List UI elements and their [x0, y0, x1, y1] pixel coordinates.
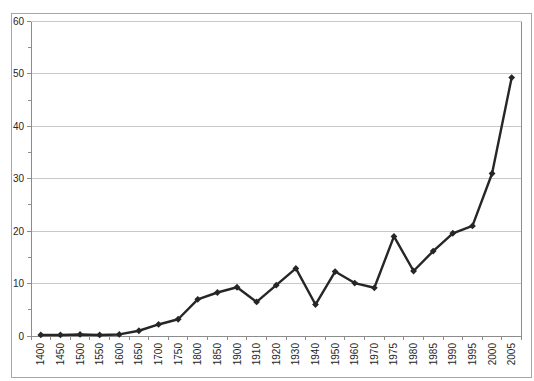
x-tick-label: 1960 [349, 343, 360, 366]
y-tick-label: 10 [13, 278, 25, 289]
x-tick-label: 2000 [487, 343, 498, 366]
x-tick-label: 1450 [55, 343, 66, 366]
x-tick-label: 1400 [35, 343, 46, 366]
x-tick-label: 1950 [330, 343, 341, 366]
x-tick-label: 1850 [212, 343, 223, 366]
x-tick-label: 1800 [192, 343, 203, 366]
x-tick-label: 1900 [232, 343, 243, 366]
x-tick-label: 1980 [408, 343, 419, 366]
x-tick-label: 1930 [290, 343, 301, 366]
chart-canvas: 0102030405060140014501500155016001650170… [0, 0, 534, 381]
x-tick-label: 2005 [506, 343, 517, 366]
x-tick-label: 1700 [153, 343, 164, 366]
x-tick-label: 1920 [271, 343, 282, 366]
x-tick-label: 1550 [94, 343, 105, 366]
x-tick-label: 1985 [428, 343, 439, 366]
x-tick-label: 1970 [369, 343, 380, 366]
x-tick-label: 1750 [173, 343, 184, 366]
y-tick-label: 60 [13, 16, 25, 27]
x-tick-label: 1910 [251, 343, 262, 366]
x-tick-label: 1995 [467, 343, 478, 366]
x-tick-label: 1650 [133, 343, 144, 366]
y-tick-label: 20 [13, 226, 25, 237]
y-tick-label: 0 [18, 331, 24, 342]
y-tick-label: 40 [13, 121, 25, 132]
x-tick-label: 1600 [114, 343, 125, 366]
x-tick-label: 1975 [388, 343, 399, 366]
y-tick-label: 50 [13, 68, 25, 79]
line-chart: 0102030405060140014501500155016001650170… [0, 0, 534, 381]
x-tick-label: 1990 [447, 343, 458, 366]
y-tick-label: 30 [13, 173, 25, 184]
x-tick-label: 1500 [75, 343, 86, 366]
x-tick-label: 1940 [310, 343, 321, 366]
chart-background [0, 0, 534, 381]
